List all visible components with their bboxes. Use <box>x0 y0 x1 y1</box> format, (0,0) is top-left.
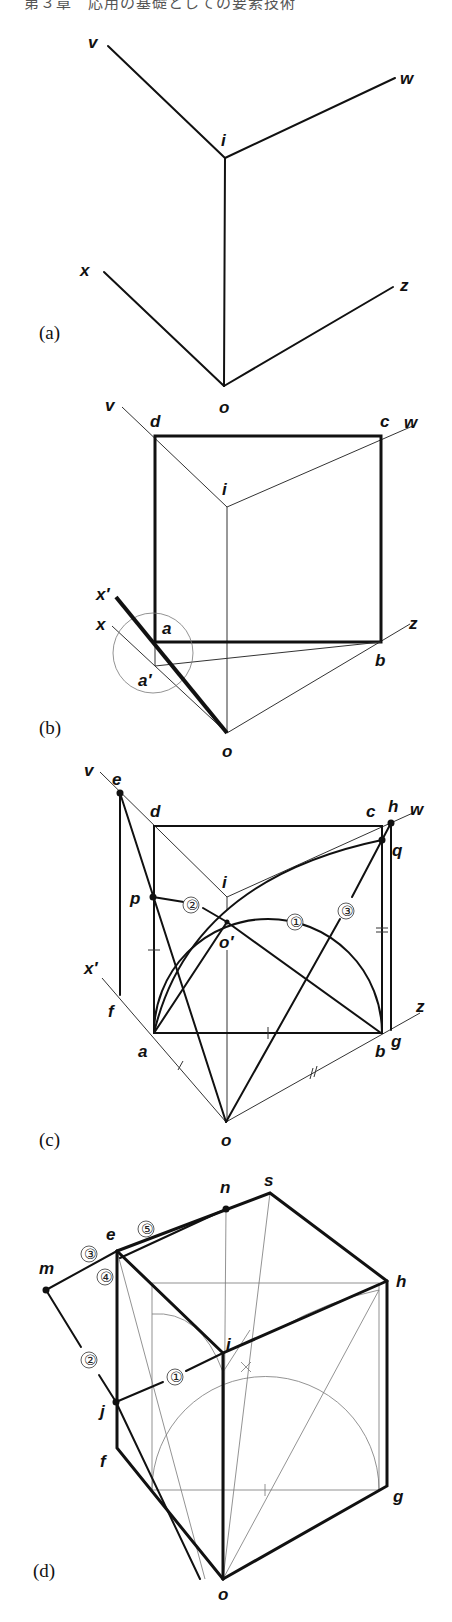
step-5-label: ⑤ <box>141 1221 154 1237</box>
semicircle <box>152 1376 379 1490</box>
step-3-label: ③ <box>341 903 354 919</box>
label-h: h <box>396 1272 406 1291</box>
panel-a: v w i x z o (a) <box>39 33 415 417</box>
label-p: p <box>129 889 140 908</box>
label-b: b <box>375 1042 385 1061</box>
label-o: o <box>221 1131 231 1150</box>
step-3-label: ③ <box>84 1246 97 1262</box>
line-e-o-thin <box>117 1251 205 1579</box>
step-4-label: ④ <box>100 1269 113 1285</box>
label-d: d <box>150 412 161 431</box>
label-h: h <box>388 797 398 816</box>
line-m-2 <box>46 1290 81 1347</box>
label-f: f <box>100 1452 108 1471</box>
label-x: x <box>95 615 107 634</box>
axis-v <box>122 407 227 507</box>
point-o-prime <box>225 920 230 925</box>
label-a-prime: a′ <box>138 671 152 690</box>
panel-d: ③ ④ ⑤ ② ① n s e m h i j f g o (d) <box>33 1171 406 1604</box>
label-o: o <box>218 1585 228 1604</box>
axis-z <box>227 624 410 733</box>
label-i: i <box>222 873 228 892</box>
label-m: m <box>39 1259 54 1278</box>
label-o-prime: o′ <box>219 933 234 952</box>
a-prime-b <box>155 642 381 666</box>
label-z: z <box>399 276 409 295</box>
label-g: g <box>390 1032 402 1051</box>
label-z: z <box>408 614 418 633</box>
point-e <box>117 790 124 797</box>
label-f: f <box>108 1002 116 1021</box>
construction-square <box>152 1283 379 1490</box>
line-e-n <box>120 1209 226 1258</box>
label-s: s <box>264 1171 273 1190</box>
caption-c: (c) <box>39 1129 60 1151</box>
label-o: o <box>219 398 229 417</box>
line-a-o-prime <box>154 922 227 1033</box>
outline-right <box>117 1193 387 1579</box>
label-q: q <box>392 841 403 860</box>
label-v: v <box>88 33 99 52</box>
point-q <box>379 837 386 844</box>
point-p <box>150 894 157 901</box>
label-n: n <box>220 1178 230 1197</box>
axis-w <box>225 78 395 158</box>
point-m <box>43 1287 50 1294</box>
label-g: g <box>392 1487 404 1506</box>
point-j <box>113 1399 120 1406</box>
label-w: w <box>400 69 415 88</box>
point-n <box>223 1206 230 1213</box>
line-1-i <box>186 1353 223 1371</box>
label-i: i <box>222 480 228 499</box>
axis-v <box>108 46 225 158</box>
step-2-label: ② <box>84 1352 97 1368</box>
caption-d: (d) <box>33 1560 55 1582</box>
step-2-label: ② <box>186 897 199 913</box>
label-e: e <box>106 1225 115 1244</box>
compass-circle <box>113 613 193 693</box>
edge-e-i <box>117 1251 223 1353</box>
label-w: w <box>404 413 419 432</box>
label-w: w <box>410 800 425 819</box>
line-o-3 <box>226 919 340 1122</box>
step-1-label: ① <box>290 914 303 930</box>
label-j: j <box>98 1402 106 1421</box>
axis-w <box>227 812 415 897</box>
label-o: o <box>222 742 232 761</box>
label-a: a <box>138 1042 147 1061</box>
panel-b: v d c w i x′ x a a′ z b o (b) <box>39 396 419 761</box>
label-x-prime: x′ <box>83 959 98 978</box>
label-b: b <box>375 651 385 670</box>
line-e-o <box>120 793 226 1122</box>
label-i: i <box>226 1335 232 1354</box>
panel-c: ② ① ③ v e d c h w q i p o′ x′ f a b g z … <box>39 761 425 1151</box>
line-2-j <box>99 1375 116 1402</box>
line-j-1 <box>116 1382 163 1402</box>
label-i: i <box>221 131 227 150</box>
label-e: e <box>112 770 121 789</box>
line-s-o <box>223 1193 270 1579</box>
point-h <box>388 820 395 827</box>
label-v: v <box>105 396 116 415</box>
line-3-q <box>352 840 382 897</box>
arc-1 <box>154 919 382 1033</box>
axis-x <box>104 272 224 386</box>
line-j-o <box>116 1402 200 1579</box>
edge-i-h <box>223 1281 387 1353</box>
step-1-label: ① <box>170 1369 183 1385</box>
label-x: x <box>79 261 91 280</box>
caption-b: (b) <box>39 717 61 739</box>
label-x-prime: x′ <box>95 585 110 604</box>
label-c: c <box>380 412 390 431</box>
axis-i-o <box>224 158 225 386</box>
isometric-construction-figure: v w i x z o (a) v d c w i x′ x a a′ z b … <box>0 0 452 1622</box>
label-z: z <box>415 997 425 1016</box>
label-c: c <box>366 802 376 821</box>
caption-a: (a) <box>39 322 60 344</box>
label-a: a <box>162 619 171 638</box>
label-v: v <box>84 761 95 780</box>
square-abcd <box>155 436 381 642</box>
label-d: d <box>150 802 161 821</box>
axis-z <box>224 287 393 386</box>
